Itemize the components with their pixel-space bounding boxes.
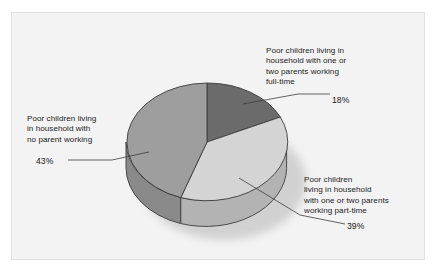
- label-part-time: Poor children living in household with o…: [304, 175, 432, 216]
- value-full-time: 18%: [332, 95, 349, 105]
- label-no-parent-working: Poor children living in household with n…: [27, 114, 145, 145]
- pie-chart-figure: Poor children living in household with o…: [0, 0, 436, 274]
- value-part-time: 39%: [347, 221, 364, 231]
- label-full-time: Poor children living in household with o…: [266, 46, 394, 87]
- value-no-parent-working: 43%: [36, 156, 53, 166]
